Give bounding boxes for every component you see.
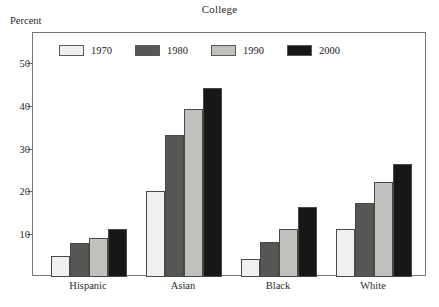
bar-black-1990[interactable] (279, 229, 298, 277)
legend-label-1990: 1990 (243, 45, 264, 56)
bar-white-1990[interactable] (374, 182, 393, 277)
legend-item-2000[interactable]: 2000 (287, 45, 340, 56)
plot-inner: 1970198019902000 1020304050 (33, 33, 427, 277)
legend-swatch-1970 (59, 45, 84, 56)
chart-legend: 1970198019902000 (59, 45, 363, 56)
x-axis-label-asian: Asian (171, 280, 196, 291)
bar-white-2000[interactable] (393, 164, 412, 277)
legend-swatch-2000 (287, 45, 312, 56)
x-axis-label-white: White (360, 280, 386, 291)
bar-hispanic-1970[interactable] (51, 256, 70, 277)
bar-hispanic-1990[interactable] (89, 238, 108, 277)
legend-item-1980[interactable]: 1980 (135, 45, 188, 56)
bar-hispanic-1980[interactable] (70, 243, 89, 277)
y-tick-label-30: 30 (20, 143, 31, 154)
bar-asian-1970[interactable] (146, 191, 165, 277)
legend-item-1970[interactable]: 1970 (59, 45, 112, 56)
legend-swatch-1980 (135, 45, 160, 56)
bar-asian-2000[interactable] (203, 88, 222, 277)
bar-asian-1980[interactable] (165, 135, 184, 277)
y-tick-label-50: 50 (20, 57, 31, 68)
bar-black-1970[interactable] (241, 259, 260, 277)
chart-container: College Percent 1970198019902000 1020304… (0, 0, 439, 307)
bar-black-1980[interactable] (260, 242, 279, 277)
x-axis-label-black: Black (266, 280, 291, 291)
legend-label-1980: 1980 (167, 45, 188, 56)
bar-black-2000[interactable] (298, 207, 317, 277)
y-tick-label-10: 10 (20, 229, 31, 240)
legend-label-2000: 2000 (319, 45, 340, 56)
y-tick-label-40: 40 (20, 100, 31, 111)
bar-white-1970[interactable] (336, 229, 355, 277)
legend-swatch-1990 (211, 45, 236, 56)
bar-white-1980[interactable] (355, 203, 374, 277)
x-axis-label-hispanic: Hispanic (69, 280, 106, 291)
y-tick-label-20: 20 (20, 186, 31, 197)
bar-hispanic-2000[interactable] (108, 229, 127, 277)
chart-title: College (0, 3, 439, 15)
legend-label-1970: 1970 (91, 45, 112, 56)
plot-area: 1970198019902000 1020304050 (32, 32, 426, 276)
bar-asian-1990[interactable] (184, 109, 203, 277)
legend-item-1990[interactable]: 1990 (211, 45, 264, 56)
y-axis-title: Percent (10, 15, 42, 26)
